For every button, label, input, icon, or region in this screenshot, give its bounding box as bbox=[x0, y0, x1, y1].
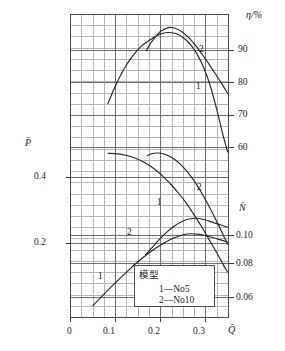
x-axis-tick-0.3: 0.3 bbox=[193, 327, 205, 337]
y-axis-left-label: P̄ bbox=[25, 138, 31, 148]
chart-container: P̄ 0.4 0.2 η/% 90 80 70 60 N̄ 0.10 0.08 … bbox=[0, 0, 285, 351]
y-axis-left-tick-0.4: 0.4 bbox=[34, 172, 46, 182]
y-axis-right-tick-0.06: 0.06 bbox=[236, 293, 253, 303]
y-axis-right-efficiency-label: η/% bbox=[246, 10, 262, 20]
curve-label-head-no10: 2 bbox=[197, 183, 202, 193]
legend-title: 模型 bbox=[139, 270, 159, 280]
curve-label-power-no10: 2 bbox=[127, 228, 132, 238]
curve-head-no5 bbox=[108, 153, 228, 272]
y-axis-right-tick-90: 90 bbox=[238, 45, 248, 55]
y-axis-right-power-label: N̄ bbox=[239, 203, 246, 213]
x-axis-tick-0.2: 0.2 bbox=[148, 327, 160, 337]
curve-label-power-no5: 1 bbox=[98, 272, 103, 282]
x-axis-tick-0: 0 bbox=[67, 327, 72, 337]
legend-entry-1: 1—No5 bbox=[159, 285, 190, 295]
curve-label-efficiency-no5: 1 bbox=[196, 82, 201, 92]
x-axis-label: Q̄ bbox=[228, 325, 235, 335]
y-axis-right-tick-70: 70 bbox=[238, 110, 248, 120]
y-axis-right-tick-0.08: 0.08 bbox=[236, 259, 253, 269]
curve-label-head-no5: 1 bbox=[157, 198, 162, 208]
y-axis-right-tick-60: 60 bbox=[238, 143, 248, 153]
y-axis-left-tick-0.2: 0.2 bbox=[34, 238, 46, 248]
y-axis-right-tick-80: 80 bbox=[238, 78, 248, 88]
legend-entry-2: 2—No10 bbox=[159, 296, 194, 306]
x-axis-tick-0.1: 0.1 bbox=[103, 327, 115, 337]
curve-label-efficiency-no10: 2 bbox=[199, 45, 204, 55]
y-axis-right-tick-0.10: 0.10 bbox=[236, 231, 253, 241]
